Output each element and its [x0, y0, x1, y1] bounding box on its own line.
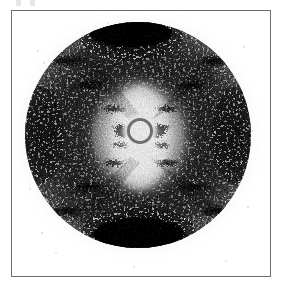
registration-tick-left [16, 0, 21, 6]
registration-tick-right [30, 0, 35, 6]
center-wash [116, 91, 164, 183]
dust-fleck [239, 103, 242, 106]
x-ray-diffraction-pattern [12, 11, 270, 276]
top-edge-registration-marks [14, 0, 50, 7]
photographic-film-plate [11, 10, 271, 277]
figure-root [0, 0, 291, 285]
